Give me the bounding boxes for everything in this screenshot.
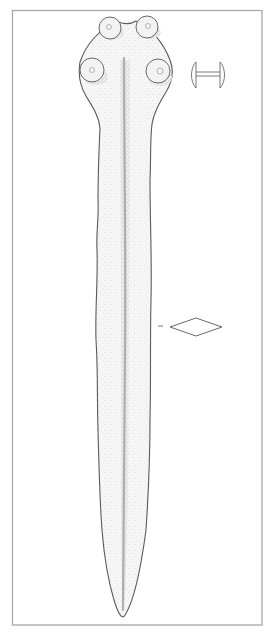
rivet-left: [80, 58, 104, 82]
blade-cross-section: [170, 318, 222, 336]
rivet-top-right: [136, 16, 158, 38]
rivet-profile: [192, 62, 225, 88]
rivet-top-left: [99, 17, 121, 39]
drawing-plate: [0, 0, 273, 637]
rivet-right: [146, 59, 170, 83]
